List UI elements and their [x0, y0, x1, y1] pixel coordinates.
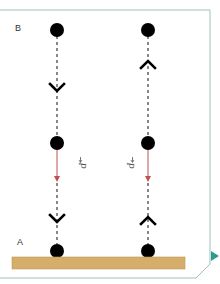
label-point-b: B [15, 23, 21, 33]
diagram-canvas [0, 0, 220, 284]
label-point-a: A [17, 237, 23, 247]
left-force-arrowhead-icon [54, 176, 60, 182]
left-column [50, 23, 64, 258]
left-ball-top [50, 23, 64, 37]
left-ball-bottom [50, 244, 64, 258]
play-triangle-icon[interactable] [211, 251, 219, 261]
label-force-right: P [125, 162, 136, 168]
chevron-down-icon [50, 215, 64, 222]
right-ball-middle [141, 136, 155, 150]
left-ball-middle [50, 136, 64, 150]
right-column [141, 23, 155, 258]
right-ball-bottom [141, 244, 155, 258]
ground-bar [12, 257, 185, 269]
label-force-left: P [77, 162, 88, 168]
right-ball-top [141, 23, 155, 37]
right-force-arrowhead-icon [145, 176, 151, 182]
diagram-frame: B A P P [0, 0, 220, 284]
frame-border [0, 10, 210, 278]
